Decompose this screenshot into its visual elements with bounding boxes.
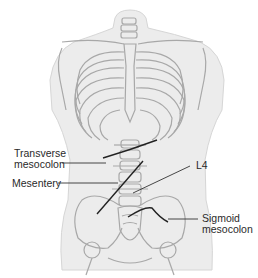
- label-line: mesocolon: [14, 159, 66, 170]
- label-line: mesocolon: [202, 224, 253, 235]
- label-l4: L4: [196, 160, 208, 171]
- label-sigmoid-mesocolon: Sigmoid mesocolon: [202, 213, 253, 235]
- anatomy-figure: Transverse mesocolon Mesentery L4 Sigmoi…: [0, 0, 258, 278]
- label-mesentery: Mesentery: [12, 178, 61, 189]
- label-transverse-mesocolon: Transverse mesocolon: [14, 148, 66, 170]
- torso-skeleton-illustration: [0, 0, 258, 278]
